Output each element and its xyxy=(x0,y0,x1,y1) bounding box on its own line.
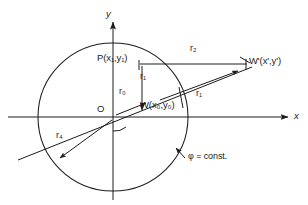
phi-const-ray xyxy=(18,67,252,160)
r2-label: r₂ xyxy=(190,44,196,53)
r1-slant-label: r₁ xyxy=(196,89,202,98)
r4-label: r₄ xyxy=(56,131,62,140)
angle-arc xyxy=(113,127,126,131)
figure-canvas: y x O P(x₁,y₁) W(x₀,y₀) W'(x',y') r₀ r₁ … xyxy=(0,0,308,205)
r1-vertical-label: r₁ xyxy=(140,72,146,81)
x-axis-label: x xyxy=(294,111,299,121)
r0-label: r₀ xyxy=(119,87,126,96)
point-p-label: P(x₁,y₁) xyxy=(97,53,127,63)
point-w-prime-label: W'(x',y') xyxy=(249,56,281,66)
segment-r4-arrow xyxy=(60,120,112,158)
y-axis-label: y xyxy=(106,9,111,19)
point-w0-label: W(x₀,y₀) xyxy=(140,100,175,110)
tick-at-w0 xyxy=(179,87,183,108)
origin-label: O xyxy=(97,104,104,114)
phi-const-label: φ = const. xyxy=(188,152,227,161)
